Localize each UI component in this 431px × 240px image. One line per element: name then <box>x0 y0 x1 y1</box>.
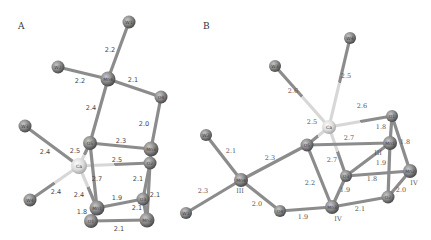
atom-label: W1 <box>182 211 189 216</box>
bond-O4-Mn3 <box>280 207 332 211</box>
bond-Mn1-O2 <box>388 143 390 197</box>
bond-length-label: 1.9 <box>340 186 350 194</box>
bond-length-label: 1.8 <box>400 138 410 146</box>
panel-label: A <box>17 21 25 31</box>
bond-length-label: 2.1 <box>355 205 365 213</box>
bond-length-label: 2.3 <box>116 137 126 145</box>
atom-label: W2 <box>202 133 209 138</box>
bond-length-label: 2.4 <box>40 148 50 156</box>
bond-length-label: 2.4 <box>86 104 96 112</box>
bond-length-label: 2.7 <box>92 175 102 183</box>
panel-a: AW1W2Mn4O4W3O5Mn3CaO2W4O3Mn1O1Mn22.22.22… <box>17 16 168 234</box>
atom-label: O3 <box>343 174 350 179</box>
bond-length-label: 2.1 <box>226 147 236 155</box>
oxidation-state-label: III <box>236 187 244 195</box>
bond-length-label: 2.0 <box>252 200 262 208</box>
oxidation-state-label: IV <box>410 179 418 187</box>
atom-label: O3 <box>140 197 147 202</box>
bond-W4-Ca <box>329 38 350 127</box>
panel-label: B <box>203 21 210 31</box>
bond-length-label: 2.0 <box>139 120 149 128</box>
atom-label: W3 <box>21 124 28 129</box>
atom-label: W1 <box>125 20 132 25</box>
bond-length-label: 2.1 <box>150 191 160 199</box>
bond-length-label: 2.5 <box>307 118 317 126</box>
bond-O5-Mn1 <box>307 143 390 145</box>
bond-W3-Ca <box>25 126 79 166</box>
bond-W3-Ca <box>275 66 329 127</box>
bond-length-label: 2.2 <box>305 179 315 187</box>
atom-label: W2 <box>54 65 61 70</box>
atom-label: O1 <box>389 114 396 119</box>
oxidation-state-label: IV <box>334 215 342 223</box>
molecular-structure-figure: AW1W2Mn4O4W3O5Mn3CaO2W4O3Mn1O1Mn22.22.22… <box>0 0 431 240</box>
oxidation-state-label: III <box>374 149 382 157</box>
bond-length-label: 2.1 <box>133 175 143 183</box>
panel-b: BW4W3CaO1W2O5Mn1O3Mn2Mn4W1O2O4Mn32.52.62… <box>180 21 418 223</box>
bond-O1-Mn2 <box>91 220 147 221</box>
atom-label: Ca <box>76 164 82 169</box>
atom-label: W3 <box>271 64 278 69</box>
atom-label: O4 <box>277 209 284 214</box>
bond-W2-Mn4 <box>206 135 241 180</box>
bond-length-label: 2.5 <box>70 147 80 155</box>
bond-W1-Mn4 <box>186 180 241 213</box>
bond-length-label: 2.7 <box>327 156 337 164</box>
bond-length-label: 2.4 <box>74 191 84 199</box>
bond-length-label: 2.2 <box>105 46 115 54</box>
bond-length-label: 2.3 <box>198 187 208 195</box>
bond-length-label: 2.4 <box>51 188 61 196</box>
atom-label: Mn4 <box>103 77 113 82</box>
atom-label: O5 <box>87 141 94 146</box>
bond-length-label: 2.5 <box>341 72 351 80</box>
bond-length-label: 2.7 <box>344 134 354 142</box>
bond-O5-Mn3 <box>307 145 332 207</box>
atom-label: O1 <box>88 219 95 224</box>
bond-O4-Mn3 <box>151 97 161 149</box>
atom-label: Ca <box>326 125 332 130</box>
bond-length-label: 1.8 <box>77 208 87 216</box>
bond-length-label: 1.9 <box>112 194 122 202</box>
atom-label: Mn3 <box>327 205 337 210</box>
bond-length-label: 2.1 <box>114 225 124 233</box>
atom-label: W4 <box>26 198 33 203</box>
atom-label: O2 <box>147 161 154 166</box>
atom-label: O2 <box>385 195 392 200</box>
bond-length-label: 1.8 <box>367 175 377 183</box>
bond-length-label: 2.5 <box>112 156 122 164</box>
atom-label: O5 <box>304 143 311 148</box>
atom-label: W4 <box>346 36 353 41</box>
atom-label: Mn1 <box>92 206 102 211</box>
bond-length-label: 1.8 <box>376 123 386 131</box>
bond-length-label: 2.6 <box>357 102 367 110</box>
bond-length-label: 2.2 <box>75 77 85 85</box>
atom-label: Mn2 <box>405 169 415 174</box>
bond-length-label: 2.1 <box>128 76 138 84</box>
bond-length-label: 1.9 <box>298 213 308 221</box>
bond-length-label: 2.6 <box>288 87 298 95</box>
atom-label: Mn2 <box>142 218 152 223</box>
bond-Mn4-O5 <box>241 145 307 180</box>
bond-length-label: 2.3 <box>265 154 275 162</box>
bond-length-label: 2.0 <box>396 186 406 194</box>
atom-label: O4 <box>158 95 165 100</box>
bond-length-label: 1.9 <box>376 159 386 167</box>
atom-label: Mn4 <box>236 178 246 183</box>
atom-label: Mn1 <box>385 141 395 146</box>
atom-label: Mn3 <box>146 147 156 152</box>
bond-O3-Mn2 <box>346 171 410 176</box>
bond-length-label: 2.1 <box>132 204 142 212</box>
